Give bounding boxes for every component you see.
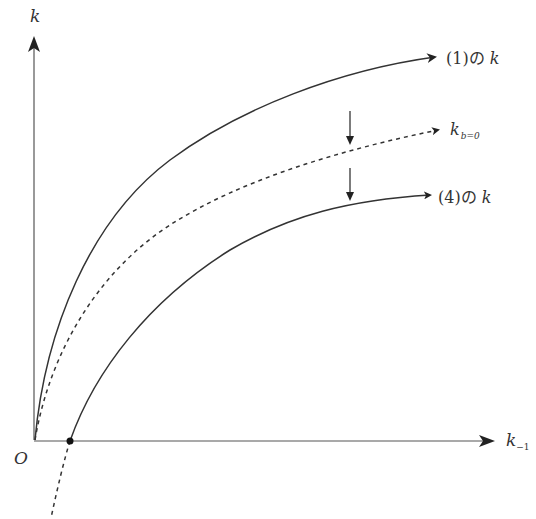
curve-b0-line: [35, 130, 438, 440]
curve-b0-label-var: k: [450, 120, 460, 139]
shift-arrow-2: [346, 168, 354, 201]
x-axis-label-sub: −1: [516, 442, 529, 452]
origin-label: O: [14, 448, 28, 468]
y-axis-label: k: [30, 6, 40, 26]
diagram: k O k−1 (1)の k kb=0 (4)の k: [0, 0, 536, 519]
x-intercept-dot: [67, 438, 74, 445]
curve-4-label-var: k: [482, 188, 492, 207]
curve-b0-label: kb=0: [450, 120, 480, 141]
curve-b0-label-sub: b=0: [461, 131, 480, 141]
curve-4-line: [70, 195, 430, 441]
x-axis-label-main: k: [506, 430, 516, 450]
x-axis: [34, 435, 495, 447]
curve-1-label: (1)の k: [446, 45, 499, 69]
diagram-canvas: [0, 0, 536, 519]
curve-4-extension: [51, 441, 70, 518]
x-axis-label: k−1: [506, 430, 530, 452]
down-arrow-icon: [346, 192, 354, 201]
curve-1-label-var: k: [490, 49, 500, 68]
down-arrow-icon: [346, 136, 354, 145]
y-axis: [28, 36, 40, 440]
curve-4-label: (4)の k: [438, 184, 491, 208]
curve-1-line: [35, 57, 435, 440]
curve-1-label-prefix: (1)の: [446, 49, 490, 68]
shift-arrow-1: [346, 111, 354, 145]
curve-4-label-prefix: (4)の: [438, 188, 482, 207]
